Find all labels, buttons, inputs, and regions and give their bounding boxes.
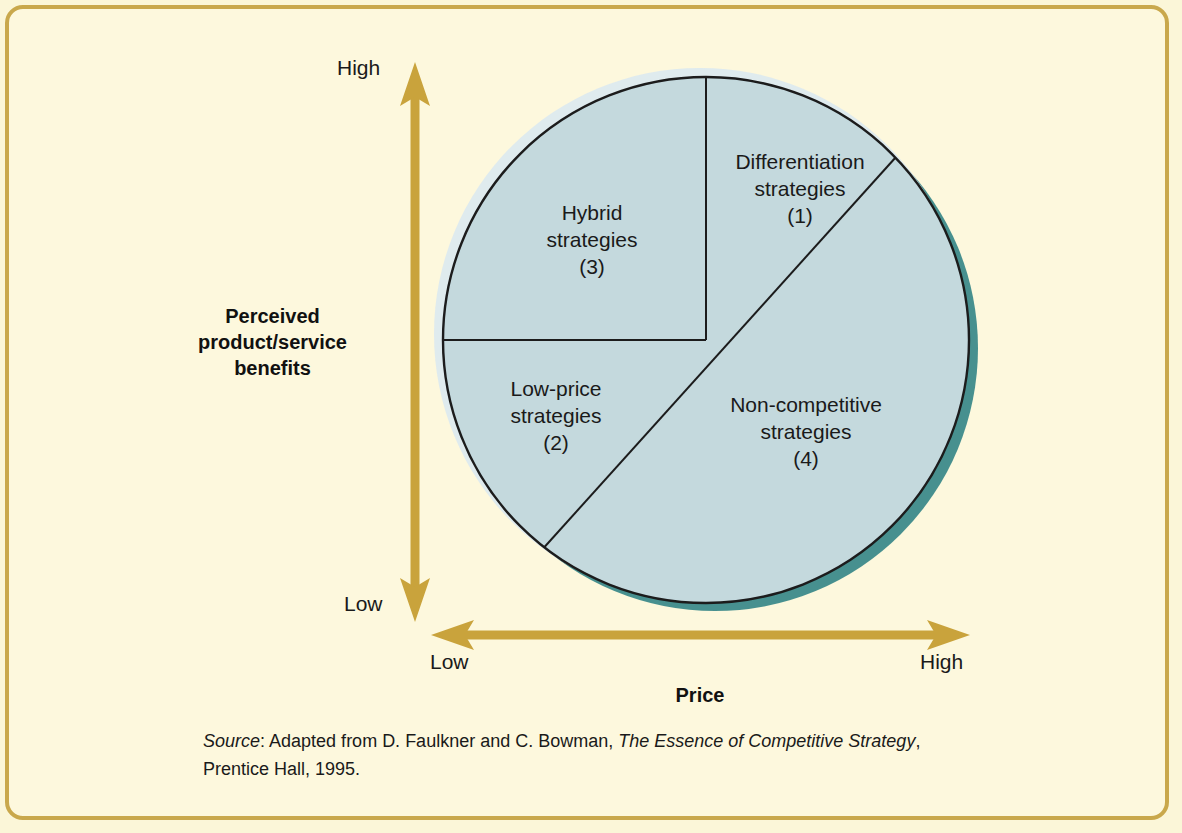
segment-label-line2: strategies bbox=[456, 402, 656, 429]
y-axis-low-label: Low bbox=[344, 592, 383, 616]
source-prefix: Source bbox=[203, 731, 260, 751]
segment-label-line1: Hybrid bbox=[492, 199, 692, 226]
y-axis-high-label: High bbox=[337, 56, 380, 80]
source-note: Source: Adapted from D. Faulkner and C. … bbox=[203, 727, 1083, 783]
segment-label-line1: Non-competitive bbox=[700, 391, 912, 418]
source-line2: Prentice Hall, 1995. bbox=[203, 755, 1083, 783]
x-axis-high-label: High bbox=[920, 650, 963, 674]
source-colon: : bbox=[260, 731, 269, 751]
y-axis-title-line3: benefits bbox=[160, 355, 385, 381]
source-book-title: The Essence of Competitive Strategy bbox=[618, 731, 915, 751]
segment-label-non-competitive: Non-competitive strategies (4) bbox=[700, 391, 912, 472]
x-axis-low-label: Low bbox=[430, 650, 469, 674]
segment-label-hybrid: Hybrid strategies (3) bbox=[492, 199, 692, 280]
segment-label-low-price: Low-price strategies (2) bbox=[456, 375, 656, 456]
source-text-part2: , bbox=[915, 731, 920, 751]
segment-label-line2: strategies bbox=[492, 226, 692, 253]
figure-page: Differentiation strategies (1) Hybrid st… bbox=[0, 0, 1182, 833]
segment-label-number: (3) bbox=[492, 253, 692, 280]
segment-label-line2: strategies bbox=[700, 418, 912, 445]
segment-label-number: (1) bbox=[700, 202, 900, 229]
segment-label-number: (2) bbox=[456, 429, 656, 456]
y-axis-title-line1: Perceived bbox=[160, 303, 385, 329]
segment-label-number: (4) bbox=[700, 445, 912, 472]
x-axis-arrow bbox=[431, 620, 970, 650]
x-axis-title: Price bbox=[600, 684, 800, 707]
y-axis-title-line2: product/service bbox=[160, 329, 385, 355]
segment-label-line2: strategies bbox=[700, 175, 900, 202]
segment-label-differentiation: Differentiation strategies (1) bbox=[700, 148, 900, 229]
source-text-part1: Adapted from D. Faulkner and C. Bowman, bbox=[269, 731, 618, 751]
y-axis-title: Perceived product/service benefits bbox=[160, 303, 385, 381]
y-axis-arrow bbox=[400, 62, 430, 622]
segment-label-line1: Low-price bbox=[456, 375, 656, 402]
segment-label-line1: Differentiation bbox=[700, 148, 900, 175]
